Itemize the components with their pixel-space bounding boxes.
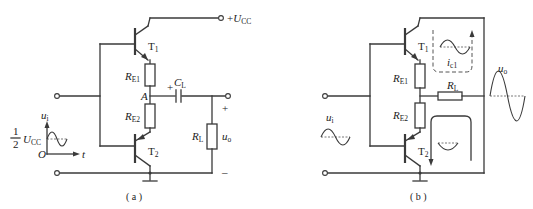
re2-label-b: RE2 — [392, 109, 408, 123]
origin-label: O — [38, 148, 46, 160]
bias-denominator: 2 — [13, 138, 19, 150]
uo-label-b: uo — [498, 62, 508, 76]
t1-label: T1 — [148, 40, 159, 54]
x-axis-arrow-icon — [73, 152, 80, 157]
transistor-t1-b — [405, 18, 420, 60]
output-minus: – — [221, 166, 228, 178]
resistor-re2 — [145, 104, 155, 128]
current-arrow-icon — [470, 30, 475, 37]
current-path-ic2 — [429, 116, 472, 166]
node-a-label: A — [140, 90, 148, 102]
input-terminal — [55, 94, 60, 99]
re2-label: RE2 — [124, 110, 140, 124]
capacitor-polarity: + — [167, 81, 173, 93]
output-terminal — [226, 94, 231, 99]
ui-label-b: ui — [326, 111, 334, 125]
supply-label: +UCC — [227, 12, 251, 26]
supply-terminal — [219, 16, 224, 21]
output-wave: uo — [490, 62, 525, 121]
resistor-re1 — [145, 64, 155, 86]
current-path-ic1: ic1 — [433, 30, 475, 72]
current-arrow-icon — [429, 159, 434, 166]
emitter-arrow-icon — [137, 134, 145, 140]
emitter-arrow-icon — [411, 53, 418, 60]
ic1-label: ic1 — [447, 56, 457, 70]
circuit-diagram: +UCC T1 RE1 A RE2 T2 — [0, 0, 533, 209]
resistor-re1-b — [415, 64, 425, 88]
ground-terminal — [55, 171, 60, 176]
panel-a: +UCC T1 RE1 A RE2 T2 — [11, 12, 251, 203]
bias-numerator: 1 — [13, 125, 19, 137]
resistor-rl — [207, 124, 217, 149]
bias-label: UCC — [23, 133, 41, 147]
emitter-arrow-icon — [407, 134, 415, 140]
t-axis-label: t — [82, 148, 86, 160]
t1-label-b: T1 — [418, 40, 429, 54]
t2-label-b: T2 — [418, 145, 429, 159]
cl-label: CL — [174, 76, 186, 90]
input-signal-graph: ui t O 1 2 UCC — [11, 109, 86, 160]
emitter-arrow-icon — [141, 53, 148, 60]
resistor-re2-b — [415, 103, 425, 128]
re1-label: RE1 — [124, 70, 140, 84]
rl-label-b: RL — [446, 79, 459, 93]
output-plus: + — [222, 102, 228, 114]
caption-a: ( a ) — [126, 191, 142, 203]
rl-label: RL — [191, 130, 204, 144]
ui-axis-label: ui — [41, 109, 49, 123]
input-wave: ui — [321, 111, 350, 145]
transistor-t1 — [135, 18, 150, 60]
t2-label: T2 — [148, 145, 159, 159]
uo-label: uo — [222, 130, 232, 144]
re1-label-b: RE1 — [392, 72, 408, 86]
input-terminal-b — [323, 94, 328, 99]
ground-terminal-b — [323, 171, 328, 176]
caption-b: ( b ) — [410, 191, 427, 203]
resistor-rl-b — [438, 92, 462, 100]
panel-b: T1 RE1 RE2 RL T2 — [321, 18, 525, 203]
